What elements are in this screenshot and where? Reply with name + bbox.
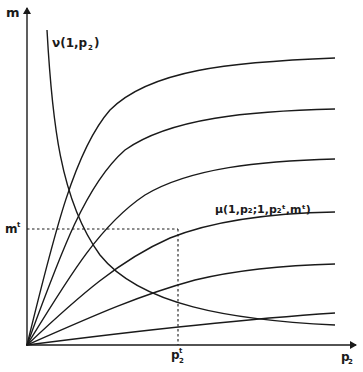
svg-text:ν(1,p: ν(1,p xyxy=(52,36,88,50)
y-axis-label: m xyxy=(6,5,20,20)
p2-t-label: p t 2 xyxy=(171,347,184,365)
nu-label: ν(1,p 2 ) xyxy=(52,36,99,52)
svg-text:2: 2 xyxy=(348,358,353,366)
mu-label: μ(1,p₂;1,p₂ᵗ,mᵗ) xyxy=(215,203,311,216)
m-t-label: m t xyxy=(5,221,21,236)
svg-text:): ) xyxy=(94,36,99,50)
svg-text:t: t xyxy=(179,347,183,355)
svg-text:m: m xyxy=(5,222,18,236)
diagram-canvas: m p 2 m t p t 2 ν(1,p 2 ) μ(1,p₂;1,p₂ᵗ,m… xyxy=(0,0,363,372)
svg-text:t: t xyxy=(17,221,21,229)
svg-text:2: 2 xyxy=(179,357,184,365)
curve-2 xyxy=(27,109,335,345)
x-axis-label: p 2 xyxy=(341,350,353,366)
svg-text:2: 2 xyxy=(88,44,93,52)
curve-5 xyxy=(27,264,335,345)
curve-6 xyxy=(27,313,335,345)
